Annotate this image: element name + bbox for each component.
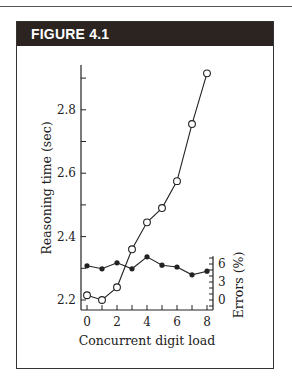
filled-circle-marker (144, 254, 149, 259)
filled-circle-marker (114, 260, 119, 265)
open-circle-marker (99, 297, 106, 304)
y-tick-label: 2.8 (57, 103, 76, 117)
filled-circle-marker (84, 263, 89, 268)
y-axis-label: Reasoning time (sec) (39, 121, 54, 254)
x-tick-label: 0 (83, 315, 91, 329)
x-tick-label: 4 (143, 315, 151, 329)
open-circle-marker (159, 205, 166, 212)
open-circle-marker (84, 292, 91, 299)
open-circle-marker (204, 70, 211, 77)
x-tick-label: 6 (173, 315, 181, 329)
open-circle-marker (144, 219, 151, 226)
filled-circle-marker (159, 263, 164, 268)
filled-circle-marker (99, 266, 104, 271)
open-circle-marker (129, 246, 136, 253)
errors-line (87, 257, 207, 275)
filled-circle-marker (204, 269, 209, 274)
y-tick-label: 2.2 (57, 293, 76, 307)
x-axis-label: Concurrent digit load (79, 333, 216, 348)
filled-circle-marker (189, 272, 194, 277)
y2-tick-label: 6 (218, 257, 226, 271)
open-circle-marker (114, 284, 121, 291)
reasoning-time-line (87, 73, 207, 300)
open-circle-marker (174, 178, 181, 185)
open-circle-marker (189, 121, 196, 128)
y2-tick-label: 0 (218, 293, 226, 307)
y2-tick-label: 3 (218, 275, 226, 289)
y-tick-label: 2.6 (57, 166, 76, 180)
filled-circle-marker (174, 264, 179, 269)
y-tick-label: 2.4 (57, 230, 76, 244)
y2-axis-label: Errors (%) (231, 252, 246, 319)
x-tick-label: 8 (203, 315, 211, 329)
chart: 2.22.42.62.802468036Concurrent digit loa… (0, 0, 292, 383)
filled-circle-marker (129, 266, 134, 271)
x-tick-label: 2 (113, 315, 121, 329)
